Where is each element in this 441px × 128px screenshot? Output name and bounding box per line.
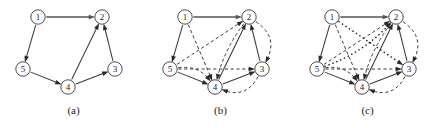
graph-edge-arrowhead [171, 56, 175, 63]
graph-edge-arrowhead [249, 67, 255, 72]
graph-panel-b: 12345 (b) [147, 0, 294, 128]
graph-node-label: 4 [213, 82, 218, 92]
graph-node[interactable]: 3 [255, 62, 269, 76]
graph-edge [31, 72, 59, 83]
graph-node[interactable]: 1 [325, 10, 339, 24]
graph-node-label: 2 [100, 12, 105, 22]
graph-edge-arrowhead [94, 23, 99, 30]
graph-edge [188, 25, 211, 78]
graph-node[interactable]: 5 [16, 62, 30, 76]
graph-node-label: 2 [394, 12, 399, 22]
graph-node-label: 1 [183, 12, 188, 22]
graph-edge [223, 73, 253, 84]
graph-node-label: 5 [315, 64, 320, 74]
graph-node-label: 3 [260, 64, 265, 74]
graph-node[interactable]: 5 [163, 62, 177, 76]
graph-node-label: 5 [21, 64, 26, 74]
graph-edge-arrowhead [412, 56, 417, 63]
graph-edge [251, 27, 260, 61]
graph-node-label: 1 [36, 12, 41, 22]
graph-edge-arrowhead [265, 56, 270, 63]
graph-node[interactable]: 5 [310, 62, 324, 76]
graph-edge-arrowhead [383, 15, 389, 20]
panel-caption-b: (b) [147, 103, 294, 117]
graph-node-label: 1 [330, 12, 335, 22]
graph-edge-arrowhead [397, 60, 404, 66]
graph-edge [325, 24, 389, 66]
graph-edge-arrowhead [349, 80, 356, 85]
graph-edge-arrowhead [102, 71, 109, 75]
graph-edge [371, 76, 405, 92]
graph-edge [398, 27, 407, 61]
graph-node[interactable]: 2 [389, 10, 403, 24]
graph-node[interactable]: 2 [242, 10, 256, 24]
graph-edge-arrowhead [250, 24, 254, 31]
graph-edge [335, 25, 358, 78]
graph-node[interactable]: 1 [31, 10, 45, 24]
graph-node-label: 5 [168, 64, 173, 74]
graph-edge-arrowhead [249, 71, 256, 75]
graph-edge [325, 72, 353, 83]
graph-edge [26, 25, 36, 59]
graph-edge [72, 26, 98, 80]
panel-caption-c: (c) [294, 103, 441, 117]
graph-edge [320, 25, 330, 59]
graph-panel-c: 12345 (c) [294, 0, 441, 128]
graph-edge-arrowhead [397, 24, 401, 31]
graph-node-label: 2 [247, 12, 252, 22]
panel-caption-a: (a) [0, 103, 147, 117]
graph-node[interactable]: 4 [61, 80, 75, 94]
figure-root: 12345 (a) 12345 (b) 12345 (c) [0, 0, 441, 128]
graph-edge-arrowhead [89, 15, 95, 20]
graph-node-label: 3 [407, 64, 412, 74]
graph-node-label: 3 [113, 64, 118, 74]
graph-edge-arrowhead [236, 15, 242, 20]
graph-node-label: 4 [360, 82, 365, 92]
graph-edge-arrowhead [55, 80, 62, 85]
graph-node[interactable]: 1 [178, 10, 192, 24]
graph-edge-arrowhead [396, 67, 402, 72]
graph-node[interactable]: 4 [208, 80, 222, 94]
graph-panel-a: 12345 (a) [0, 0, 147, 128]
graph-edge-arrowhead [103, 24, 107, 31]
graph-edge [104, 27, 113, 61]
graph-edge-arrowhead [396, 71, 403, 75]
graph-edge [178, 72, 206, 83]
graph-edge-arrowhead [202, 80, 209, 85]
graph-edge-arrowhead [318, 56, 322, 63]
graph-edge-arrowhead [368, 89, 375, 93]
graph-edge [370, 73, 400, 84]
graph-node[interactable]: 3 [108, 62, 122, 76]
graph-edge-arrowhead [24, 56, 28, 63]
graph-edge [224, 76, 258, 92]
graph-node[interactable]: 4 [355, 80, 369, 94]
graph-edge-arrowhead [221, 89, 228, 93]
graph-edge [173, 25, 183, 59]
graph-node[interactable]: 2 [95, 10, 109, 24]
graph-edge [76, 73, 106, 84]
graph-node-label: 4 [66, 82, 71, 92]
graph-node[interactable]: 3 [402, 62, 416, 76]
